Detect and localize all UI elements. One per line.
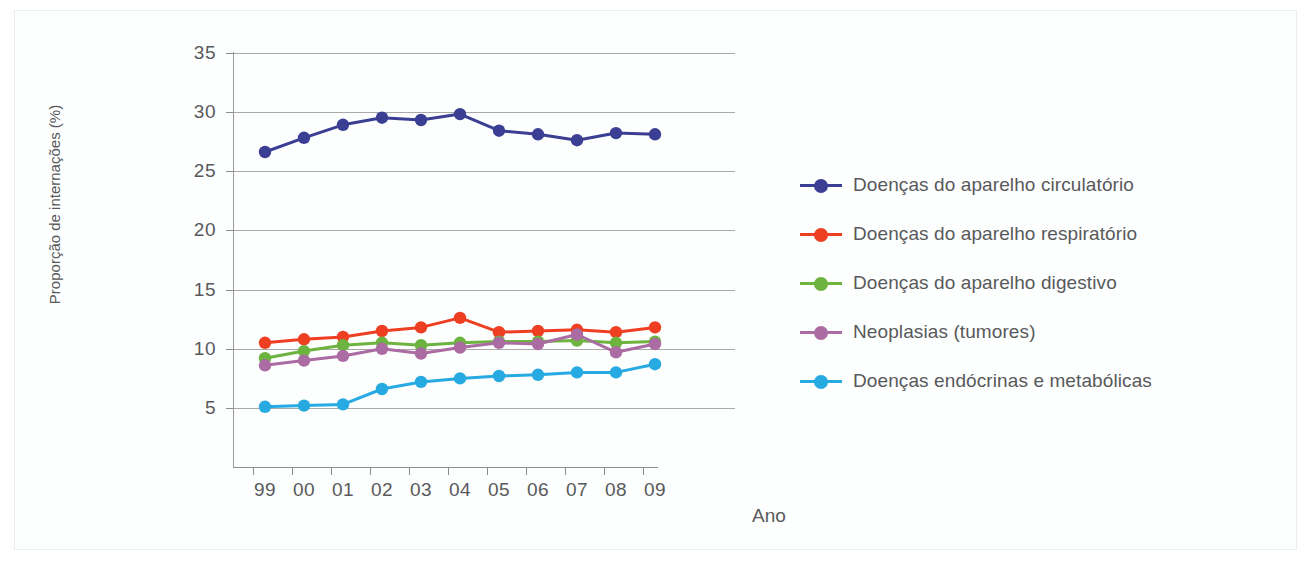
gridline bbox=[233, 230, 735, 231]
gridline bbox=[233, 408, 735, 409]
legend-item-1[interactable]: Doenças do aparelho circulatório bbox=[800, 160, 1270, 209]
x-tick-label: 00 bbox=[284, 480, 324, 499]
legend-dot-icon bbox=[814, 179, 828, 193]
x-tick-label: 06 bbox=[518, 480, 558, 499]
y-tick-mark bbox=[226, 349, 233, 350]
x-tick-mark bbox=[448, 467, 449, 475]
legend-marker-icon bbox=[800, 175, 842, 195]
gridline bbox=[233, 53, 735, 54]
y-tick-label: 25 bbox=[176, 161, 216, 180]
chart-legend: Doenças do aparelho circulatórioDoenças … bbox=[800, 160, 1270, 405]
x-tick-label: 08 bbox=[596, 480, 636, 499]
legend-item-5[interactable]: Doenças endócrinas e metabólicas bbox=[800, 356, 1270, 405]
legend-marker-icon bbox=[800, 224, 842, 244]
x-tick-mark bbox=[643, 467, 644, 475]
y-tick-mark bbox=[226, 230, 233, 231]
legend-dot-icon bbox=[814, 277, 828, 291]
x-tick-label: 01 bbox=[323, 480, 363, 499]
x-tick-label: 07 bbox=[557, 480, 597, 499]
y-tick-label: 30 bbox=[176, 102, 216, 121]
y-tick-label: 15 bbox=[176, 280, 216, 299]
legend-item-2[interactable]: Doenças do aparelho respiratório bbox=[800, 209, 1270, 258]
y-tick-mark bbox=[226, 408, 233, 409]
legend-item-3[interactable]: Doenças do aparelho digestivo bbox=[800, 258, 1270, 307]
x-tick-mark bbox=[565, 467, 566, 475]
legend-dot-icon bbox=[814, 326, 828, 340]
legend-label: Doenças do aparelho circulatório bbox=[853, 174, 1134, 196]
y-tick-label: 35 bbox=[176, 43, 216, 62]
x-tick-mark bbox=[331, 467, 332, 475]
x-axis-title: Ano bbox=[752, 505, 786, 527]
y-tick-label: 5 bbox=[176, 398, 216, 417]
gridline bbox=[233, 171, 735, 172]
x-tick-label: 09 bbox=[635, 480, 675, 499]
x-tick-label: 02 bbox=[362, 480, 402, 499]
legend-dot-icon bbox=[814, 228, 828, 242]
x-tick-label: 03 bbox=[401, 480, 441, 499]
chart-figure: 3530252015105 9900010203040506070809 Pro… bbox=[0, 0, 1313, 562]
y-tick-label: 10 bbox=[176, 339, 216, 358]
x-tick-mark bbox=[370, 467, 371, 475]
legend-label: Doenças endócrinas e metabólicas bbox=[853, 370, 1152, 392]
legend-marker-icon bbox=[800, 322, 842, 342]
x-tick-label: 05 bbox=[479, 480, 519, 499]
x-tick-label: 99 bbox=[245, 480, 285, 499]
y-tick-mark bbox=[226, 112, 233, 113]
legend-marker-icon bbox=[800, 371, 842, 391]
gridline bbox=[233, 112, 735, 113]
legend-label: Neoplasias (tumores) bbox=[853, 321, 1036, 343]
y-tick-label: 20 bbox=[176, 220, 216, 239]
x-tick-mark bbox=[526, 467, 527, 475]
legend-label: Doenças do aparelho respiratório bbox=[853, 223, 1137, 245]
gridline bbox=[233, 349, 735, 350]
x-tick-label: 04 bbox=[440, 480, 480, 499]
y-axis-title: Proporção de internações (%) bbox=[46, 55, 63, 355]
x-axis-line bbox=[233, 467, 658, 468]
x-tick-mark bbox=[409, 467, 410, 475]
legend-dot-icon bbox=[814, 375, 828, 389]
y-tick-mark bbox=[226, 290, 233, 291]
y-tick-mark bbox=[226, 171, 233, 172]
legend-label: Doenças do aparelho digestivo bbox=[853, 272, 1117, 294]
x-tick-mark bbox=[292, 467, 293, 475]
x-tick-mark bbox=[604, 467, 605, 475]
x-tick-mark bbox=[487, 467, 488, 475]
legend-marker-icon bbox=[800, 273, 842, 293]
legend-item-4[interactable]: Neoplasias (tumores) bbox=[800, 307, 1270, 356]
x-tick-mark bbox=[253, 467, 254, 475]
y-tick-mark bbox=[226, 53, 233, 54]
y-axis-line bbox=[233, 52, 234, 468]
gridline bbox=[233, 290, 735, 291]
